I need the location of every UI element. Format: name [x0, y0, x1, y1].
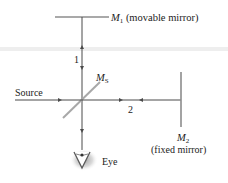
- background-band: [0, 47, 228, 51]
- arrow-right-icon: [119, 98, 123, 102]
- arrow-down-icon: [80, 66, 84, 70]
- interferometer-diagram: M1 (movable mirror) 1 MS Source 2 M2 (fi…: [0, 0, 228, 183]
- eye-icon: [70, 149, 98, 171]
- arrow-right-icon: [58, 98, 62, 102]
- path-2-label: 2: [128, 104, 133, 115]
- arrow-left-icon: [139, 98, 143, 102]
- eye-label: Eye: [102, 156, 118, 167]
- arrow-down-icon: [80, 129, 84, 133]
- source-label: Source: [15, 87, 43, 98]
- mirror-m1-label: M1 (movable mirror): [110, 12, 199, 25]
- mirror-m2-desc: (fixed mirror): [151, 144, 206, 156]
- path-1-label: 1: [74, 54, 79, 65]
- beam-splitter-label: MS: [95, 72, 109, 85]
